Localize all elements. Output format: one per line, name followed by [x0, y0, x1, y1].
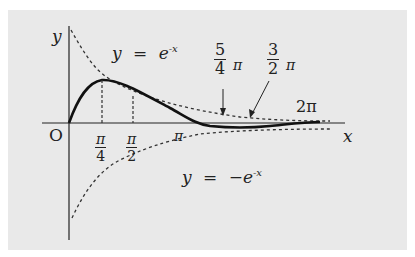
- three-halves-arrow: [252, 81, 269, 114]
- upper-equation: y = e-x: [112, 44, 178, 62]
- tick-pi-over-4: π 4: [95, 132, 106, 163]
- frac-num: 3: [267, 42, 279, 58]
- frac-num: π: [126, 132, 137, 146]
- x-axis-label: x: [343, 128, 353, 145]
- tick-two-pi: 2π: [296, 99, 317, 115]
- eq-lhs: y: [182, 167, 192, 187]
- eq-lhs: y: [112, 43, 122, 63]
- eq-sign: =: [133, 43, 147, 63]
- eq-rhs: −e: [229, 167, 253, 187]
- origin-label: O: [49, 127, 63, 144]
- frac-num: π: [95, 132, 106, 146]
- tick-pi: π: [174, 129, 183, 143]
- three-halves-pi-symbol: π: [286, 58, 295, 72]
- frac-den: 4: [214, 61, 226, 77]
- eq-exponent: -x: [169, 43, 178, 54]
- frac-den: 2: [267, 61, 279, 77]
- frac-den: 4: [95, 149, 106, 163]
- tick-pi-over-2: π 2: [126, 132, 137, 163]
- eq-exponent: -x: [253, 167, 262, 178]
- frac-den: 2: [126, 149, 137, 163]
- tick-five-quarters: 5 4: [214, 42, 226, 77]
- frac-num: 5: [214, 42, 226, 58]
- y-axis-label: y: [52, 28, 62, 45]
- eq-rhs: e: [159, 43, 169, 63]
- upper-envelope-curve: [71, 30, 330, 121]
- tick-three-halves: 3 2: [267, 42, 279, 77]
- arrowhead-icon: [220, 108, 226, 116]
- five-quarters-pi-symbol: π: [233, 58, 242, 72]
- eq-sign: =: [203, 167, 217, 187]
- lower-equation: y = −e-x: [182, 168, 262, 186]
